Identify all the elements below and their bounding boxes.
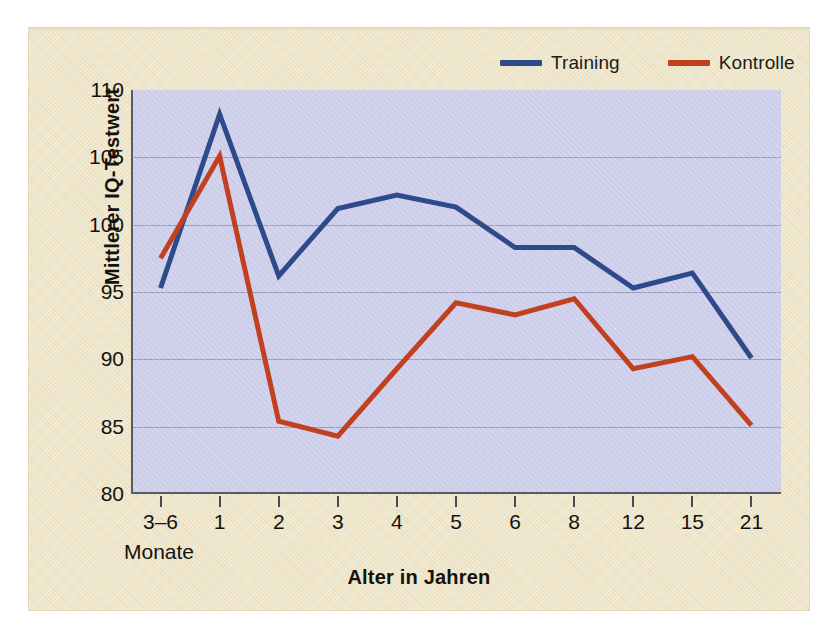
x-tick-9 xyxy=(691,496,693,507)
x-tick-label-4: 4 xyxy=(391,510,403,534)
chart-legend: Training Kontrolle xyxy=(500,52,795,74)
y-tick-label-85: 85 xyxy=(78,415,124,439)
x-tick-10 xyxy=(750,496,752,507)
legend-item-kontrolle: Kontrolle xyxy=(668,52,795,74)
x-tick-5 xyxy=(455,496,457,507)
series-line-training xyxy=(161,114,752,358)
y-tick-label-90: 90 xyxy=(78,347,124,371)
x-axis-sub-label: Monate xyxy=(124,540,194,564)
x-tick-2 xyxy=(278,496,280,507)
plot-wrapper xyxy=(131,90,781,494)
x-tick-label-2: 2 xyxy=(273,510,285,534)
legend-label-training: Training xyxy=(551,52,620,74)
legend-item-training: Training xyxy=(500,52,620,74)
x-tick-6 xyxy=(514,496,516,507)
chart-page: Training Kontrolle 80859095100105110 Mit… xyxy=(0,0,838,638)
chart-lines xyxy=(131,90,781,494)
x-tick-label-5: 5 xyxy=(450,510,462,534)
x-tick-label-8: 12 xyxy=(622,510,645,534)
x-tick-label-1: 1 xyxy=(214,510,226,534)
line-swatch-icon-training xyxy=(500,60,542,66)
x-tick-0 xyxy=(160,496,162,507)
x-tick-1 xyxy=(219,496,221,507)
line-swatch-icon-kontrolle xyxy=(668,60,710,66)
legend-label-kontrolle: Kontrolle xyxy=(719,52,795,74)
y-axis-title: Mittlerer IQ-Testwert xyxy=(101,67,124,307)
x-tick-label-0: 3–6 xyxy=(143,510,178,534)
y-tick-label-80: 80 xyxy=(78,482,124,506)
x-tick-label-9: 15 xyxy=(681,510,704,534)
x-tick-4 xyxy=(396,496,398,507)
figure-card-top-edge xyxy=(28,27,810,30)
x-tick-label-3: 3 xyxy=(332,510,344,534)
x-axis-ticks: 3–61234568121521 xyxy=(131,496,781,508)
x-tick-8 xyxy=(632,496,634,507)
x-tick-label-7: 8 xyxy=(568,510,580,534)
x-tick-label-6: 6 xyxy=(509,510,521,534)
x-tick-3 xyxy=(337,496,339,507)
x-tick-7 xyxy=(573,496,575,507)
x-tick-label-10: 21 xyxy=(740,510,763,534)
x-axis-title: Alter in Jahren xyxy=(0,566,838,589)
